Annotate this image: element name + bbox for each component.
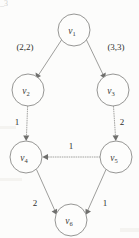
edge-label-v2-v4: 1 xyxy=(15,117,20,127)
node-v2[interactable]: v2 xyxy=(12,74,44,106)
node-v3[interactable]: v3 xyxy=(97,74,129,106)
edge-v1-v3 xyxy=(87,40,106,79)
edge-label-v1-v2: (2,2) xyxy=(16,42,33,52)
node-v5[interactable]: v5 xyxy=(100,141,132,173)
edge-v1-v2 xyxy=(36,40,62,79)
node-v6[interactable]: v6 xyxy=(55,204,87,236)
edge-v3-v5 xyxy=(113,107,119,142)
node-v1-subscript: 1 xyxy=(72,30,75,37)
node-v2-subscript: 2 xyxy=(26,90,29,97)
node-v3-subscript: 3 xyxy=(111,90,114,97)
edge-v4-v6 xyxy=(37,170,58,216)
edge-label-v4-v6: 2 xyxy=(33,198,38,208)
directed-graph: (2,2) (3,3) 1 2 1 2 1 v1 v2 v3 xyxy=(0,0,139,238)
edge-label-v5-v4: 1 xyxy=(69,141,74,151)
edge-v5-v6 xyxy=(85,170,106,216)
edge-v5-v4 xyxy=(42,154,100,160)
node-v1[interactable]: v1 xyxy=(58,14,90,46)
node-v4[interactable]: v4 xyxy=(10,141,42,173)
edge-label-v5-v6: 1 xyxy=(103,198,108,208)
figure-canvas: _3 xyxy=(0,0,139,238)
edge-label-v3-v5: 2 xyxy=(120,117,125,127)
edge-label-v1-v3: (3,3) xyxy=(107,42,124,52)
edge-v2-v4 xyxy=(23,107,29,142)
node-v5-subscript: 5 xyxy=(114,157,117,164)
